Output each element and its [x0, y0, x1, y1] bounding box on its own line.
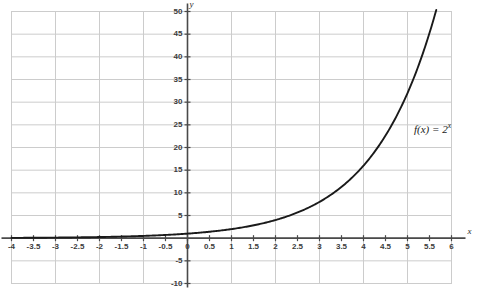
x-tick-label: 2 — [273, 243, 277, 251]
x-tick-label: -0.5 — [159, 243, 173, 251]
x-tick-label: -1.5 — [115, 243, 129, 251]
x-tick-label: 5.5 — [424, 243, 435, 251]
y-tick-label: 25 — [162, 121, 183, 129]
x-tick-label: 0 — [185, 243, 189, 251]
x-axis-label: x — [468, 227, 472, 236]
y-tick-label: 10 — [162, 189, 183, 197]
x-tick-label: -3 — [52, 243, 59, 251]
y-tick-label: -5 — [162, 257, 183, 265]
x-tick-label: 1.5 — [248, 243, 259, 251]
function-annotation-base: f(x) = 2 — [414, 123, 448, 135]
x-tick-label: -4 — [8, 243, 15, 251]
y-axis-label: y — [190, 0, 194, 9]
y-tick-label: 5 — [162, 212, 183, 220]
y-tick-label: 30 — [162, 98, 183, 106]
x-tick-label: 0.5 — [204, 243, 215, 251]
y-tick-label: 15 — [162, 166, 183, 174]
x-tick-label: 5 — [405, 243, 409, 251]
y-tick-label: 40 — [162, 53, 183, 61]
x-tick-label: 4.5 — [380, 243, 391, 251]
y-tick-label: 35 — [162, 76, 183, 84]
x-tick-label: -3.5 — [27, 243, 41, 251]
function-curve — [12, 10, 437, 238]
function-annotation: f(x) = 2x — [414, 122, 451, 135]
x-tick-label: -1 — [140, 243, 147, 251]
x-tick-label: 1 — [229, 243, 233, 251]
y-tick-label: 45 — [162, 30, 183, 38]
x-tick-label: 4 — [361, 243, 365, 251]
x-tick-label: 6 — [449, 243, 453, 251]
x-tick-label: 3 — [317, 243, 321, 251]
x-tick-label: 3.5 — [336, 243, 347, 251]
y-tick-label: 20 — [162, 144, 183, 152]
y-tick-label: 50 — [162, 8, 183, 16]
function-annotation-exponent: x — [448, 121, 451, 130]
x-tick-label: -2.5 — [71, 243, 85, 251]
x-tick-label: -2 — [96, 243, 103, 251]
x-tick-label: 2.5 — [292, 243, 303, 251]
exponential-function-graph: -4-3.5-3-2.5-2-1.5-1-0.500.511.522.533.5… — [0, 0, 495, 289]
y-tick-label: -10 — [162, 280, 183, 288]
